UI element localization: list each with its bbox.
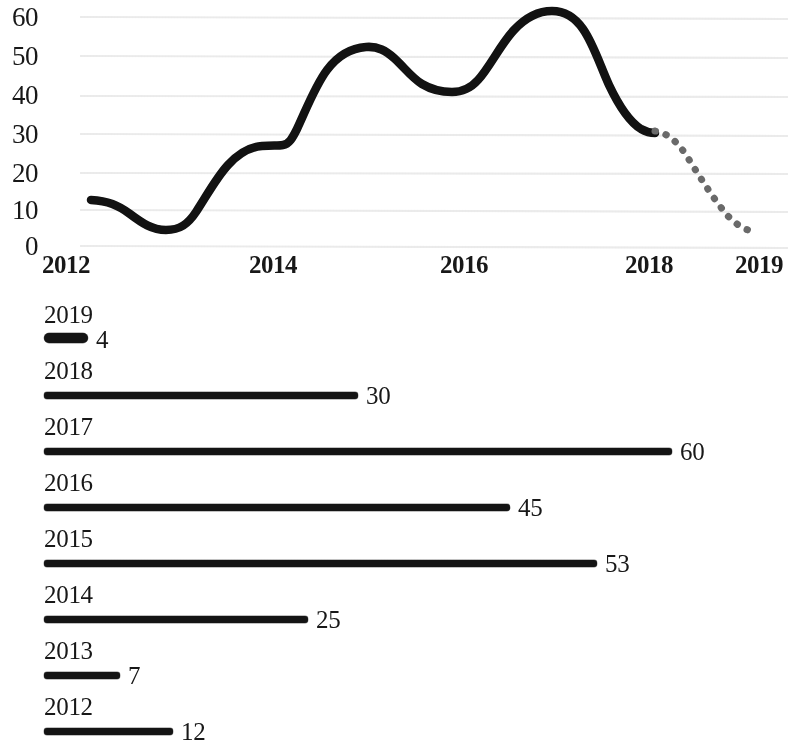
x-axis-tick-2014: 2014 (249, 252, 297, 277)
bar-row: 2015 53 (0, 524, 788, 580)
bar-row: 2016 45 (0, 468, 788, 524)
y-axis-tick-0: 0 (0, 233, 38, 260)
gridline-0 (80, 246, 788, 248)
bar-year-label: 2019 (44, 302, 93, 327)
bar-value-label: 7 (128, 663, 140, 688)
x-axis-tick-2019: 2019 (735, 252, 783, 277)
bar-row: 2013 7 (0, 636, 788, 692)
bar-fill (44, 504, 510, 511)
y-axis-tick-30: 30 (0, 121, 38, 148)
bar-value-label: 53 (605, 551, 629, 576)
y-axis-tick-60: 60 (0, 4, 38, 31)
bar-value-label: 25 (316, 607, 340, 632)
x-axis-tick-2018: 2018 (625, 252, 673, 277)
line-series-forecast (655, 131, 748, 230)
bar-track (44, 728, 173, 735)
bar-year-label: 2014 (44, 582, 93, 607)
bar-fill (44, 448, 672, 455)
gridline-50 (80, 56, 788, 58)
bar-year-label: 2016 (44, 470, 93, 495)
bar-year-label: 2017 (44, 414, 93, 439)
y-axis-tick-20: 20 (0, 160, 38, 187)
bar-year-label: 2015 (44, 526, 93, 551)
bar-row: 2017 60 (0, 412, 788, 468)
bar-value-label: 60 (680, 439, 704, 464)
bar-track (44, 616, 308, 623)
bar-row: 2018 30 (0, 356, 788, 412)
bar-row: 2012 12 (0, 692, 788, 745)
bar-fill (44, 392, 358, 399)
gridline-40 (80, 96, 788, 97)
gridline-10 (80, 210, 788, 212)
bar-value-label: 30 (366, 383, 390, 408)
bar-row: 2014 25 (0, 580, 788, 636)
bar-year-label: 2013 (44, 638, 93, 663)
bar-year-label: 2018 (44, 358, 93, 383)
x-axis-tick-2016: 2016 (440, 252, 488, 277)
bar-track (44, 560, 597, 567)
gridline-20 (80, 173, 788, 174)
line-series-actual (91, 11, 655, 230)
bar-value-label: 4 (96, 327, 108, 352)
line-chart-plot (0, 0, 788, 290)
bar-chart: 2019 4 2018 30 2017 60 2016 45 2015 53 2 (0, 290, 788, 745)
bar-track (44, 333, 88, 343)
bar-fill (44, 560, 597, 567)
bar-value-label: 12 (181, 719, 205, 744)
bar-year-label: 2012 (44, 694, 93, 719)
bar-row: 2019 4 (0, 300, 788, 356)
bar-track (44, 672, 120, 679)
x-axis-tick-2012: 2012 (42, 252, 90, 277)
bar-fill (44, 616, 308, 623)
gridline-30 (80, 134, 788, 136)
gridline-60 (80, 17, 788, 19)
bar-value-label: 45 (518, 495, 542, 520)
bar-fill (44, 728, 173, 735)
bar-track (44, 504, 510, 511)
y-axis-tick-10: 10 (0, 197, 38, 224)
gridlines (80, 17, 788, 248)
bar-track (44, 448, 672, 455)
y-axis-tick-40: 40 (0, 82, 38, 109)
line-chart: 60 50 40 30 20 10 0 2012 2014 2016 2018 … (0, 0, 788, 290)
bar-fill (44, 672, 120, 679)
bar-fill (44, 333, 88, 343)
y-axis-tick-50: 50 (0, 43, 38, 70)
bar-track (44, 392, 358, 399)
